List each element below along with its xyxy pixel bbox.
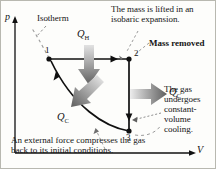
point-3-dashed-leader [135, 125, 161, 135]
p-axis [12, 16, 18, 153]
q-cold-right-arrow [130, 83, 167, 105]
q-cold-diagonal-subscript: C [65, 117, 69, 124]
state-point-1-marker [46, 56, 51, 61]
q-cold-diagonal-symbol: Q [57, 111, 65, 122]
state-point-2-label: 2 [134, 48, 139, 58]
constant-volume-leader-arrowhead [132, 117, 138, 123]
q-hot-label: QH [77, 28, 89, 41]
isotherm-annotation: Isotherm [37, 13, 69, 23]
constant-volume-leader-line [137, 113, 161, 119]
pv-diagram-figure: p V 1 2 3 QH QC QC Isotherm The mass is … [0, 0, 216, 169]
compression-leader-arrowhead [94, 128, 100, 134]
v-axis-label: V [197, 144, 203, 155]
p-axis-label: p [5, 11, 10, 22]
q-hot-subscript: H [85, 34, 90, 41]
compression-annotation: An external force compresses the gas bac… [11, 135, 163, 155]
state-point-1-label: 1 [45, 45, 50, 55]
mass-removed-annotation: Mass removed [149, 38, 205, 48]
isobaric-expansion-annotation: The mass is lifted in an isobaric expans… [111, 4, 216, 24]
q-cold-diagonal-label: QC [57, 111, 69, 124]
state-point-2-marker [126, 56, 131, 61]
q-hot-symbol: Q [77, 28, 85, 39]
constant-volume-cooling-annotation: The gas undergoes constant-volume coolin… [164, 84, 216, 134]
isotherm-leader-line [36, 26, 46, 37]
